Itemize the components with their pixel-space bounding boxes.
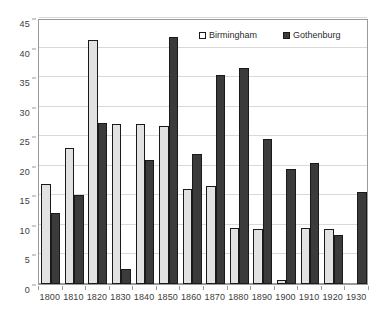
bar-birmingham-1810 (65, 148, 74, 284)
x-axis-tick-mark (156, 286, 157, 290)
x-axis-tick-label: 1820 (87, 292, 107, 302)
x-axis-tick-mark (368, 286, 369, 290)
x-axis-tick-mark (179, 286, 180, 290)
bar-birmingham-1900 (277, 280, 286, 284)
y-axis: 051015202530354045 (0, 19, 36, 285)
bar-gothenburg-1840 (145, 160, 154, 284)
bar-birmingham-1910 (301, 228, 310, 284)
x-axis-tick-mark (203, 286, 204, 290)
gridline (39, 17, 367, 18)
x-axis-tick-mark (132, 286, 133, 290)
bar-gothenburg-1920 (334, 235, 343, 284)
x-axis-tick-label: 1870 (205, 292, 225, 302)
y-axis-tick-mark (32, 166, 36, 167)
x-axis-tick-label: 1920 (322, 292, 342, 302)
dark-square-swatch (283, 32, 290, 39)
plot-area (38, 19, 368, 285)
bar-birmingham-1860 (183, 189, 192, 284)
x-axis-tick-label: 1880 (228, 292, 248, 302)
bars-layer (39, 20, 367, 284)
x-axis-tick-label: 1860 (181, 292, 201, 302)
x-axis: 1800181018201830184018501860187018801890… (38, 286, 368, 310)
bar-gothenburg-1900 (286, 169, 295, 284)
y-axis-tick-mark (32, 48, 36, 49)
x-axis-tick-label: 1830 (110, 292, 130, 302)
y-axis-tick-mark (32, 78, 36, 79)
bar-gothenburg-1890 (263, 139, 272, 284)
x-axis-tick-label: 1810 (63, 292, 83, 302)
bar-group (157, 20, 181, 284)
x-axis-tick-label: 1900 (275, 292, 295, 302)
x-axis-tick-mark (109, 286, 110, 290)
y-axis-tick-mark (32, 225, 36, 226)
bar-group (63, 20, 87, 284)
bar-birmingham-1850 (159, 126, 168, 284)
bar-birmingham-1870 (206, 186, 215, 284)
bar-chart: 051015202530354045 180018101820183018401… (0, 0, 380, 320)
y-axis-tick-mark (32, 107, 36, 108)
bar-group (251, 20, 275, 284)
bar-group (228, 20, 252, 284)
x-axis-tick-mark (274, 286, 275, 290)
legend-label: Gothenburg (293, 30, 341, 40)
bar-gothenburg-1850 (169, 37, 178, 284)
x-axis-tick-mark (38, 286, 39, 290)
bar-group (180, 20, 204, 284)
x-axis-tick-label: 1840 (134, 292, 154, 302)
bar-group (110, 20, 134, 284)
bar-group (133, 20, 157, 284)
y-axis-tick-mark (32, 196, 36, 197)
bar-gothenburg-1800 (51, 213, 60, 284)
bar-birmingham-1920 (324, 229, 333, 284)
x-axis-tick-mark (85, 286, 86, 290)
y-axis-tick-mark (32, 285, 36, 286)
bar-gothenburg-1910 (310, 163, 319, 284)
x-axis-tick-mark (250, 286, 251, 290)
bar-birmingham-1840 (136, 124, 145, 284)
bar-group (345, 20, 369, 284)
bar-gothenburg-1870 (216, 75, 225, 284)
x-axis-tick-label: 1890 (252, 292, 272, 302)
legend-item-birmingham: Birmingham (199, 30, 257, 40)
x-axis-tick-mark (344, 286, 345, 290)
y-axis-tick-mark (32, 19, 36, 20)
chart-legend: BirminghamGothenburg (196, 29, 344, 41)
y-axis-tick-mark (32, 255, 36, 256)
bar-group (86, 20, 110, 284)
bar-group (298, 20, 322, 284)
light-square-swatch (199, 32, 206, 39)
legend-label: Birmingham (209, 30, 257, 40)
bar-gothenburg-1930 (357, 192, 366, 284)
bar-group (275, 20, 299, 284)
bar-gothenburg-1820 (98, 123, 107, 284)
x-axis-tick-label: 1910 (299, 292, 319, 302)
legend-item-gothenburg: Gothenburg (283, 30, 341, 40)
bar-gothenburg-1880 (239, 68, 248, 284)
bar-gothenburg-1830 (121, 269, 130, 284)
bar-group (322, 20, 346, 284)
bar-gothenburg-1860 (192, 154, 201, 284)
bar-birmingham-1830 (112, 124, 121, 284)
x-axis-tick-label: 1850 (157, 292, 177, 302)
x-axis-tick-mark (62, 286, 63, 290)
bar-group (39, 20, 63, 284)
bar-birmingham-1820 (88, 40, 97, 284)
bar-birmingham-1890 (253, 229, 262, 284)
bar-group (204, 20, 228, 284)
x-axis-tick-mark (227, 286, 228, 290)
y-axis-tick-mark (32, 137, 36, 138)
bar-birmingham-1800 (41, 184, 50, 284)
bar-birmingham-1880 (230, 228, 239, 284)
x-axis-tick-mark (297, 286, 298, 290)
x-axis-tick-label: 1800 (40, 292, 60, 302)
x-axis-tick-label: 1930 (346, 292, 366, 302)
x-axis-tick-mark (321, 286, 322, 290)
bar-gothenburg-1810 (74, 195, 83, 284)
